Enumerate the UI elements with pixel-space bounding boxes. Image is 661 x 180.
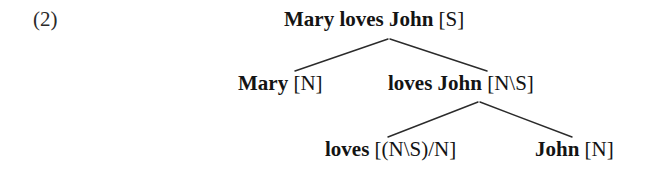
branch-lovesjohn-to-loves xyxy=(388,102,478,137)
tree-node-mary: Mary [N] xyxy=(238,73,323,94)
branch-root-to-loves-john xyxy=(390,39,487,71)
tree-node-loves-john-phrase: loves John xyxy=(388,71,482,95)
tree-node-john: John [N] xyxy=(535,139,614,160)
tree-node-loves-john-category: [N\S] xyxy=(487,71,534,95)
branch-root-to-mary xyxy=(295,39,388,71)
tree-node-john-category: [N] xyxy=(585,137,614,161)
tree-node-mary-category: [N] xyxy=(293,71,322,95)
tree-node-root-phrase: Mary loves John xyxy=(284,7,433,31)
example-number-label: (2) xyxy=(33,9,58,30)
tree-node-mary-phrase: Mary xyxy=(238,71,288,95)
tree-node-loves-john: loves John [N\S] xyxy=(388,73,534,94)
tree-node-loves: loves [(N\S)/N] xyxy=(325,139,456,160)
tree-node-root: Mary loves John [S] xyxy=(284,9,464,30)
tree-node-loves-phrase: loves xyxy=(325,137,369,161)
branch-lovesjohn-to-john xyxy=(480,102,572,137)
tree-node-loves-category: [(N\S)/N] xyxy=(375,137,457,161)
tree-node-root-category: [S] xyxy=(439,7,465,31)
tree-node-john-phrase: John xyxy=(535,137,579,161)
ccg-derivation-figure: (2) Mary loves John [S] Mary [N] loves J… xyxy=(0,0,661,180)
